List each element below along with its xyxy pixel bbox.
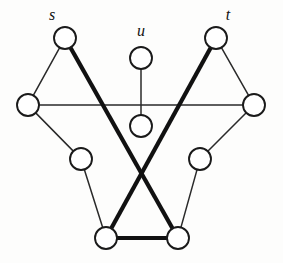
graph-node bbox=[130, 115, 152, 137]
graph-node bbox=[189, 148, 211, 170]
graph-edge-mr-br bbox=[181, 170, 197, 228]
graph-node bbox=[70, 148, 92, 170]
node-label-s: s bbox=[49, 6, 55, 23]
graph-edge-s-br bbox=[70, 48, 172, 229]
graph-node-t bbox=[205, 27, 227, 49]
graph-edge-ml-bl bbox=[84, 169, 102, 227]
graph-edge-r-mr bbox=[208, 113, 246, 151]
graph-node bbox=[167, 227, 189, 249]
graph-node-u bbox=[130, 47, 152, 69]
graph-edge-t-r bbox=[221, 48, 248, 96]
node-label-t: t bbox=[226, 6, 231, 23]
graph-node-s bbox=[54, 27, 76, 49]
graph-edge-l-ml bbox=[36, 113, 74, 151]
graph-node bbox=[243, 94, 265, 116]
graph-node bbox=[95, 227, 117, 249]
graph-canvas: sut bbox=[0, 0, 283, 263]
graph-edge-s-l bbox=[33, 48, 59, 96]
graph-node bbox=[17, 94, 39, 116]
graph-diagram: sut bbox=[0, 0, 283, 263]
node-label-u: u bbox=[137, 22, 145, 39]
graph-edge-t-bl bbox=[111, 48, 210, 229]
